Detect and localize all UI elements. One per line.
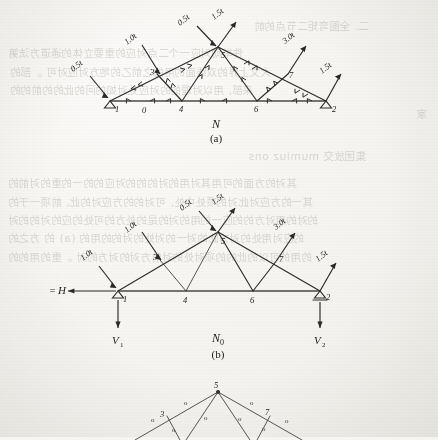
node-label-6-a: 6 [254,104,259,114]
load-label-10t-node3-a: 1.0t [122,30,139,46]
member-label-0-a: 0 [142,105,147,115]
support-pin-node1-a [105,101,116,108]
node-label-3-b: 3 [152,252,157,262]
load-label-05t-node1-a: 0.5t [68,57,85,73]
reaction-label-H-prefix-b: = [49,285,56,296]
force-arrows-web67-a [267,81,278,92]
web-5-6-c [218,392,250,440]
support-roller-node2-b [313,291,327,300]
zero-mark-c-4: o [204,414,208,422]
load-arrow-15t-node2-b [320,263,336,291]
node-label-3-c: 3 [159,409,164,419]
load-label-15t-node5-b: 1.5t [209,190,226,206]
node-label-6-b: 6 [250,295,255,305]
node-label-5-b: 5 [221,236,225,246]
web-5-4-c [186,392,218,440]
load-arrow-05t-node5-b [199,211,216,231]
load-label-15t-node5-a: 1.5t [209,5,226,21]
node-label-2-b: 2 [326,292,331,302]
zero-mark-c-5: o [238,415,242,423]
force-arrows-web34-a [166,78,176,88]
node-label-1-a: 1 [115,104,119,114]
web-6-7-b [253,260,277,291]
reaction-arrow-V1-b [115,300,120,328]
top-chord-left-a [110,47,218,101]
top-chord-left-b [118,232,218,291]
zero-mark-c-6: o [285,417,289,425]
node-label-7-b: 7 [279,254,284,264]
node-label-5-a: 5 [221,50,225,60]
web-4-5-a [182,47,218,101]
load-arrow-10t-node1-b [99,266,116,288]
load-label-30t-node7-b: 3.0t [270,215,288,232]
figure-a-caption: N (a) [178,118,254,145]
reaction-label-H-b: H [57,284,67,296]
load-label-10t-node3-b: 1.0t [122,218,139,234]
reaction-arrow-H-b [68,288,116,293]
load-label-10t-node1-b: 1.0t [78,246,95,262]
top-chord-right-a [218,47,326,101]
node-label-5-c: 5 [214,380,218,390]
figure-b-symbol: N0 [180,332,256,348]
figure-a-symbol: N [178,118,254,132]
load-label-05t-node5-b: 0.5t [177,196,194,212]
web-6-7-a [257,74,288,101]
force-arrows-web56-a [234,66,246,82]
figure-a-number: (a) [178,132,254,145]
load-arrow-05t-node1-a [90,76,108,98]
figure-b-caption: N0 (b) [180,332,256,361]
load-label-05t-node5-a: 0.5t [175,11,192,27]
node-label-7-c: 7 [265,407,270,417]
reaction-label-V2-b: V [314,334,322,346]
node-label-4-a: 4 [179,104,184,114]
reaction-label-V1-sub-b: 1 [120,341,124,349]
node-label-2-a: 2 [332,104,337,114]
force-arrows-web45-a [198,65,209,79]
zero-mark-c-8: o [262,425,266,433]
load-arrow-05t-node5-a [197,26,216,46]
top-chord-right-c [218,392,302,440]
load-label-15t-node2-a: 1.5t [317,59,334,75]
node-label-7-a: 7 [289,70,294,80]
load-arrow-10t-node3-b [142,232,161,260]
node-label-1-b: 1 [123,294,127,304]
reaction-arrow-V2-b [317,302,322,328]
node-label-4-b: 4 [183,295,188,305]
web-3-4-a [157,74,182,101]
zero-mark-c-1: o [184,399,188,407]
force-arrows-top-right-a [244,61,308,97]
load-arrow-15t-node5-a [218,22,236,47]
load-label-15t-node2-b: 1.5t [313,247,330,263]
support-pin-node2-a [321,101,332,108]
figure-b-number: (b) [180,348,256,361]
figure-c-truss-diagram: 5 3 7 o o o o o o o o [0,380,438,440]
load-arrow-15t-node5-b [218,208,235,232]
figure-b-subscript: 0 [220,338,224,347]
top-chord-right-b [218,232,320,291]
reaction-label-V2-sub-b: 2 [322,341,326,349]
zero-mark-c-7: o [172,426,176,434]
load-arrow-15t-node2-a [326,74,341,101]
web-3-4-b [160,260,186,291]
zero-mark-c-3: o [151,416,155,424]
node-label-3-a: 3 [149,67,154,77]
support-pin-node1-b [113,291,124,298]
load-label-30t-node7-a: 3.0t [279,29,297,46]
reaction-label-V1-b: V [112,334,120,346]
zero-mark-c-2: o [250,399,254,407]
